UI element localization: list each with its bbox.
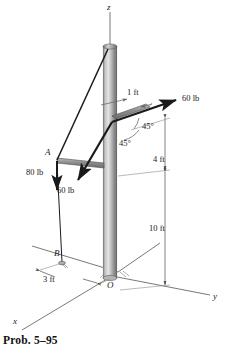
angle-label-lower-45: 45°: [119, 139, 131, 148]
x-axis-line: [22, 276, 112, 330]
dim-10ft-ext-bottom: [120, 285, 170, 290]
axis-label-x: x: [13, 317, 17, 326]
angle-label-upper-45: 45°: [142, 122, 154, 131]
y-axis-line: [112, 276, 210, 295]
force-label-60-lower: 60 lb: [57, 186, 74, 195]
force-60-upper-arrow: [112, 100, 176, 122]
support-B-hatch-2: [64, 264, 68, 268]
lower-arm-A: [57, 158, 104, 168]
dim-label-4ft: 4 ft: [153, 155, 165, 164]
axis-label-y: y: [213, 292, 217, 301]
support-B: [59, 261, 68, 268]
force-label-80: 80 lb: [26, 168, 43, 177]
pole-top-cap: [103, 44, 117, 49]
angle-upper-45-arc: [134, 118, 139, 129]
point-label-O: O: [107, 281, 114, 290]
dim-label-10ft: 10 ft: [149, 224, 165, 233]
pole: [103, 44, 117, 281]
pole-body: [103, 46, 117, 279]
ground-edge-right: [118, 243, 160, 272]
dim-label-1ft: 1 ft: [127, 88, 139, 97]
force-label-60-upper: 60 lb: [182, 94, 199, 103]
dim-label-3ft: 3 ft: [43, 275, 55, 284]
lower-arm-body: [57, 158, 104, 168]
point-label-A: A: [45, 148, 51, 157]
figure-container: z x y A B O 1 ft 60 lb 45° 45° 80 lb 60 …: [0, 0, 226, 351]
dim-3ft-arrow-right: [83, 279, 97, 283]
force-60-upper: [112, 100, 176, 122]
figure-caption: Prob. 5–95: [3, 334, 58, 346]
dim-4ft-ext-bottom: [118, 170, 170, 176]
axis-label-z: z: [107, 3, 111, 12]
angle-arcs: [124, 118, 139, 140]
point-label-B: B: [54, 249, 60, 258]
